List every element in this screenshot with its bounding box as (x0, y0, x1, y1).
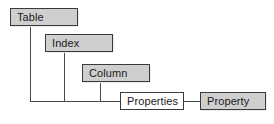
node-column-label: Column (89, 68, 128, 79)
connector-rail-to-properties (30, 101, 120, 102)
node-index-label: Index (52, 38, 79, 49)
connector-column-drop (100, 82, 101, 102)
node-table[interactable]: Table (10, 8, 78, 26)
node-table-label: Table (17, 12, 44, 23)
connector-properties-to-property (184, 101, 200, 102)
node-properties-label: Properties (127, 96, 178, 107)
node-index[interactable]: Index (45, 34, 113, 52)
node-property-label: Property (207, 96, 249, 107)
connector-table-drop (30, 26, 31, 102)
node-column[interactable]: Column (82, 64, 150, 82)
node-properties[interactable]: Properties (120, 92, 184, 110)
entity-hierarchy-diagram: Table Index Column Properties Property (0, 0, 274, 124)
node-property[interactable]: Property (200, 92, 266, 110)
connector-index-drop (64, 52, 65, 102)
